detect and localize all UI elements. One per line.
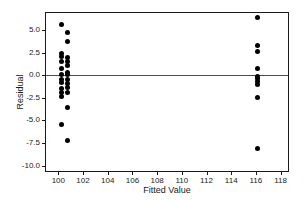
x-axis-tick xyxy=(58,171,59,175)
x-axis-tick xyxy=(108,171,109,175)
y-axis-tick xyxy=(42,98,46,99)
y-axis-tick xyxy=(42,53,46,54)
x-axis-tick-label: 116 xyxy=(250,177,263,185)
data-point xyxy=(65,72,70,77)
data-point xyxy=(255,66,260,71)
x-axis-tick-label: 118 xyxy=(274,177,287,185)
data-point xyxy=(59,80,64,85)
y-axis-tick-label: 5.0 xyxy=(29,26,40,34)
x-axis-tick-label: 108 xyxy=(150,177,163,185)
x-axis-tick xyxy=(231,171,232,175)
data-point xyxy=(255,15,260,20)
y-axis-tick-label: -7.5 xyxy=(26,139,40,147)
x-axis-tick xyxy=(157,171,158,175)
x-axis-tick xyxy=(207,171,208,175)
residual-scatter-plot: 5.02.50.0-2.5-5.0-7.5-10.010010210410610… xyxy=(0,0,303,202)
x-axis-tick-label: 112 xyxy=(200,177,213,185)
data-point xyxy=(59,59,64,64)
y-axis-tick-label: -2.5 xyxy=(26,94,40,102)
y-axis-tick-label: 2.5 xyxy=(29,49,40,57)
data-point xyxy=(59,72,64,77)
data-point xyxy=(59,94,64,99)
data-point xyxy=(59,122,64,127)
x-axis-tick xyxy=(132,171,133,175)
zero-residual-line xyxy=(46,75,288,76)
y-axis-tick-label: 0.0 xyxy=(29,71,40,79)
x-axis-tick-label: 114 xyxy=(225,177,238,185)
data-point xyxy=(65,30,70,35)
data-point xyxy=(59,22,64,27)
y-axis-tick xyxy=(42,143,46,144)
x-axis-tick xyxy=(281,171,282,175)
data-point xyxy=(255,49,260,54)
x-axis-tick-label: 102 xyxy=(76,177,89,185)
data-point xyxy=(255,43,260,48)
x-axis-tick-label: 104 xyxy=(101,177,114,185)
y-axis-title: Residual xyxy=(16,74,25,109)
x-axis-tick-label: 100 xyxy=(52,177,65,185)
x-axis-tick xyxy=(83,171,84,175)
plot-frame: 5.02.50.0-2.5-5.0-7.5-10.010010210410610… xyxy=(45,12,289,172)
y-axis-tick xyxy=(42,30,46,31)
data-point xyxy=(255,95,260,100)
x-axis-tick-label: 106 xyxy=(126,177,139,185)
data-point xyxy=(255,82,260,87)
y-axis-tick xyxy=(42,75,46,76)
y-axis-tick xyxy=(42,166,46,167)
y-axis-tick-label: -5.0 xyxy=(26,116,40,124)
data-point xyxy=(255,146,260,151)
data-point xyxy=(65,39,70,44)
data-point xyxy=(65,138,70,143)
data-point xyxy=(65,63,70,68)
y-axis-tick xyxy=(42,120,46,121)
x-axis-tick xyxy=(182,171,183,175)
x-axis-tick-label: 110 xyxy=(175,177,188,185)
x-axis-title: Fitted Value xyxy=(45,186,289,195)
data-point xyxy=(59,54,64,59)
data-point xyxy=(65,90,70,95)
data-point xyxy=(65,105,70,110)
y-axis-tick-label: -10.0 xyxy=(22,162,40,170)
data-point xyxy=(59,66,64,71)
x-axis-tick xyxy=(256,171,257,175)
plot-area xyxy=(46,13,288,171)
